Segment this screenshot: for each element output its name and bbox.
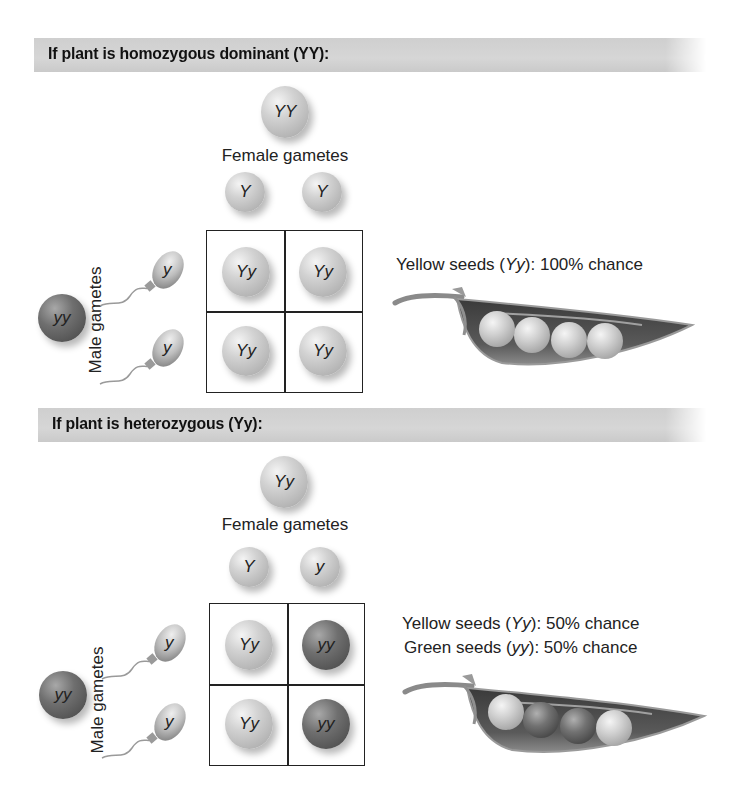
punnett-cell-r2c2: Yy: [299, 326, 347, 376]
female-gamete-2: y: [300, 547, 340, 587]
male-parent-sphere: yy: [38, 294, 86, 342]
pea-pod-illustration: [392, 285, 712, 385]
section-header-text: If plant is homozygous dominant (YY):: [48, 44, 329, 64]
male-gamete-1: y: [163, 260, 172, 280]
male-parent-sphere: yy: [39, 671, 87, 719]
male-gamete-2: y: [163, 338, 172, 358]
punnett-cell-r1c1: Yy: [222, 247, 270, 297]
sperm-icon: [102, 702, 202, 791]
female-gametes-label: Female gametes: [222, 146, 349, 166]
result-yellow-seeds: Yellow seeds (Yy): 50% chance: [402, 614, 640, 634]
male-gamete-1: y: [165, 633, 174, 653]
punnett-cell-r2c2: yy: [302, 699, 350, 749]
result-yellow-seeds: Yellow seeds (Yy): 100% chance: [396, 255, 643, 275]
punnett-cell-r1c2: yy: [302, 620, 350, 670]
punnett-cell-r1c2: Yy: [299, 247, 347, 297]
female-gamete-1: Y: [229, 547, 269, 587]
result-green-seeds: Green seeds (yy): 50% chance: [404, 638, 637, 658]
punnett-cell-r2c1: Yy: [225, 699, 273, 749]
punnett-cell-r1c1: Yy: [225, 620, 273, 670]
female-gamete-2: Y: [302, 172, 342, 212]
section-header-heterozygous: If plant is heterozygous (Yy):: [38, 408, 706, 442]
female-gametes-label: Female gametes: [222, 515, 349, 535]
punnett-cell-r2c1: Yy: [222, 326, 270, 376]
female-parent-sphere: Yy: [260, 456, 308, 508]
male-gamete-2: y: [165, 712, 174, 732]
section-header-homozygous: If plant is homozygous dominant (YY):: [34, 38, 706, 72]
female-gamete-1: Y: [225, 172, 265, 212]
pea-pod-illustration: [402, 672, 722, 772]
section-header-text: If plant is heterozygous (Yy):: [52, 414, 263, 434]
female-parent-sphere: YY: [261, 86, 309, 138]
